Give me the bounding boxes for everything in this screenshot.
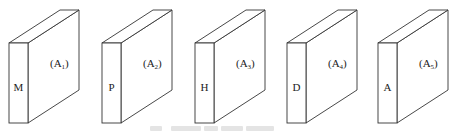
face-label: (A5) [419, 57, 438, 71]
panel-box: P(A2) [102, 10, 172, 123]
figure-caption-illegible [150, 124, 310, 133]
front-label: H [201, 81, 209, 93]
face-label: (A2) [143, 57, 162, 71]
panel-box: A(A5) [378, 10, 448, 123]
panels-diagram: M(A1)P(A2)H(A3)D(A4)A(A5) [0, 0, 454, 135]
front-label: M [14, 81, 24, 93]
face-label: (A4) [328, 57, 347, 71]
face-label: (A1) [50, 57, 69, 71]
face-label: (A3) [236, 57, 255, 71]
panel-box: D(A4) [287, 10, 357, 123]
panel-box: M(A1) [9, 10, 79, 123]
front-label: P [108, 81, 114, 93]
front-label: A [384, 81, 392, 93]
panel-box: H(A3) [195, 10, 265, 123]
front-label: D [293, 81, 301, 93]
